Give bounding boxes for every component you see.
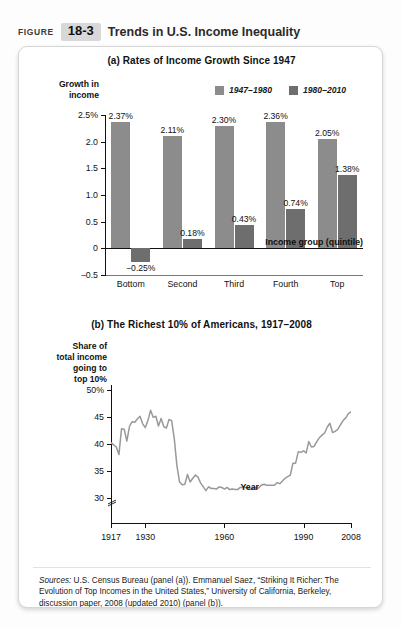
bar-value-label: 2.30% xyxy=(212,115,236,125)
legend-item-1980-2010: 1980–2010 xyxy=(289,85,346,95)
panel-a-x-category-fourth: Fourth xyxy=(273,279,298,289)
panel-a-legend: 1947–1980 1980–2010 xyxy=(215,85,346,95)
legend-swatch-1980-2010 xyxy=(289,86,298,95)
bar-fourth-1947-1980: 2.36% xyxy=(266,122,285,248)
panel-b-x-tick-label: 1930 xyxy=(135,532,155,542)
panel-a-y-tick xyxy=(101,222,106,223)
panel-a-x-axis-title: Income group (quintile) xyxy=(19,237,363,247)
panel-b-y-tick-label: 30 xyxy=(94,493,104,503)
panel-b-x-tick xyxy=(111,523,112,528)
legend-swatch-1947-1980 xyxy=(215,86,224,95)
sources-divider xyxy=(33,567,371,568)
panel-a-y-axis-title-line1: Growth in xyxy=(59,79,99,89)
figure-header: FIGURE 18-3 Trends in U.S. Income Inequa… xyxy=(18,22,300,42)
bar-bottom-1947-1980: 2.37% xyxy=(111,122,130,248)
panel-b-x-tick xyxy=(351,523,352,528)
figure-card: (a) Rates of Income Growth Since 1947 Gr… xyxy=(18,46,383,608)
figure-word-label: FIGURE xyxy=(18,27,54,37)
legend-label-1947-1980: 1947–1980 xyxy=(229,85,272,95)
panel-b-y-tick-label: 40 xyxy=(94,439,104,449)
panel-a-x-category-bottom: Bottom xyxy=(117,279,145,289)
sources-note: Sources: U.S. Census Bureau (panel (a)).… xyxy=(39,575,369,608)
panel-b-y-tick-label: 50% xyxy=(86,385,104,395)
panel-b-x-axis-title: Year xyxy=(19,482,259,492)
panel-b-x-tick-label: 2008 xyxy=(341,532,361,542)
bar-value-label: 0.74% xyxy=(283,198,307,208)
bar-value-label: 2.36% xyxy=(263,111,287,121)
panel-b-x-tick-label: 1990 xyxy=(294,532,314,542)
bar-bottom-1980-2010: −0.25% xyxy=(131,248,150,261)
bar-value-label: −0.25% xyxy=(126,263,155,273)
panel-a-y-tick xyxy=(101,115,106,116)
panel-a-y-tick-label: 0.5 xyxy=(86,217,98,227)
panel-b-y-axis-title-line4: top 10% xyxy=(74,374,107,384)
panel-a-x-category-third: Third xyxy=(224,279,244,289)
bar-top-1947-1980: 2.05% xyxy=(318,139,337,248)
legend-label-1980-2010: 1980–2010 xyxy=(303,85,346,95)
panel-b-y-axis-title-line3: going to xyxy=(73,363,107,373)
panel-b-y-axis-title-line2: total income xyxy=(56,352,107,362)
bar-value-label: 0.43% xyxy=(232,214,256,224)
panel-a-y-tick xyxy=(101,195,106,196)
panel-b-y-axis-title-line1: Share of xyxy=(73,341,107,351)
panel-a-y-tick xyxy=(101,248,106,249)
panel-a-y-tick xyxy=(101,168,106,169)
panel-b-x-tick xyxy=(304,523,305,528)
panel-a-y-tick xyxy=(101,275,106,276)
figure-page: FIGURE 18-3 Trends in U.S. Income Inequa… xyxy=(0,0,401,629)
bar-value-label: 1.38% xyxy=(335,164,359,174)
panel-a-y-tick xyxy=(101,142,106,143)
panel-a-x-category-second: Second xyxy=(167,279,197,289)
panel-a-y-tick-label: 2.0 xyxy=(86,137,98,147)
sources-label: Sources: xyxy=(39,576,71,585)
bar-value-label: 2.05% xyxy=(315,128,339,138)
bar-second-1947-1980: 2.11% xyxy=(163,136,182,249)
panel-b-y-tick-label: 45 xyxy=(94,412,104,422)
panel-a-y-axis-title: Growth in income xyxy=(37,79,99,101)
sources-text: U.S. Census Bureau (panel (a)). Emmanuel… xyxy=(39,576,339,608)
panel-a-y-tick-label: −0.5 xyxy=(81,270,98,280)
panel-a-y-tick-label: 2.5% xyxy=(78,110,98,120)
panel-b-y-tick-label: 35 xyxy=(94,466,104,476)
panel-b-x-tick xyxy=(224,523,225,528)
figure-number-badge: 18-3 xyxy=(61,23,101,41)
panel-a-title: (a) Rates of Income Growth Since 1947 xyxy=(19,55,383,66)
panel-a-y-tick-label: 1.5 xyxy=(86,163,98,173)
panel-b-y-axis-title: Share of total income going to top 10% xyxy=(29,341,107,385)
panel-a-plot-area: 2.5%2.01.51.00.50−0.52.37%−0.25%Bottom2.… xyxy=(105,115,363,275)
panel-a-y-axis-title-line2: income xyxy=(69,90,99,100)
panel-b-x-tick xyxy=(145,523,146,528)
panel-a-baseline xyxy=(105,275,363,276)
bar-value-label: 2.37% xyxy=(109,111,133,121)
panel-a-y-tick-label: 1.0 xyxy=(86,190,98,200)
panel-a-x-category-top: Top xyxy=(330,279,344,289)
panel-b-x-tick-label: 1960 xyxy=(215,532,235,542)
bar-value-label: 2.11% xyxy=(161,125,185,135)
figure-title: Trends in U.S. Income Inequality xyxy=(108,25,300,39)
panel-b-x-axis-line xyxy=(111,523,351,524)
panel-b-x-tick-label: 1917 xyxy=(101,532,121,542)
panel-b-title: (b) The Richest 10% of Americans, 1917–2… xyxy=(19,319,383,330)
legend-item-1947-1980: 1947–1980 xyxy=(215,85,272,95)
panel-b: (b) The Richest 10% of Americans, 1917–2… xyxy=(19,319,383,569)
panel-a: (a) Rates of Income Growth Since 1947 Gr… xyxy=(19,55,383,317)
bar-third-1947-1980: 2.30% xyxy=(215,126,234,249)
